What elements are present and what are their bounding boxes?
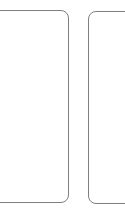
right-card-content — [89, 12, 125, 203]
left-card-content — [0, 11, 68, 202]
right-card[interactable] — [88, 11, 125, 204]
left-card[interactable] — [0, 10, 69, 203]
screenshot-root — [0, 0, 125, 223]
